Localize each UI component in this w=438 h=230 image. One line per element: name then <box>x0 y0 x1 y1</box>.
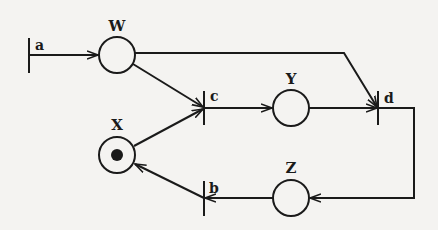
transition-d-label: d <box>384 90 394 106</box>
transition-b-label: b <box>209 180 219 196</box>
arc-w-to-c <box>133 64 203 107</box>
place-x-label: X <box>111 116 123 134</box>
arc-b-to-x <box>135 164 204 198</box>
place-y-label: Y <box>285 70 297 88</box>
arc-x-to-c <box>134 109 203 146</box>
petri-net-diagram: a c d b W X Y Z <box>0 0 438 230</box>
place-z-label: Z <box>286 159 297 177</box>
place-y <box>273 90 309 126</box>
place-w <box>99 37 135 73</box>
arc-w-to-d <box>135 53 377 107</box>
transition-c-label: c <box>210 88 219 104</box>
place-w-label: W <box>108 17 127 35</box>
transitions: a c d b <box>29 37 394 216</box>
place-z <box>273 180 309 216</box>
token-icon <box>111 149 123 161</box>
transition-a-label: a <box>35 37 44 53</box>
arcs <box>29 53 414 198</box>
arc-d-to-z <box>310 108 414 198</box>
